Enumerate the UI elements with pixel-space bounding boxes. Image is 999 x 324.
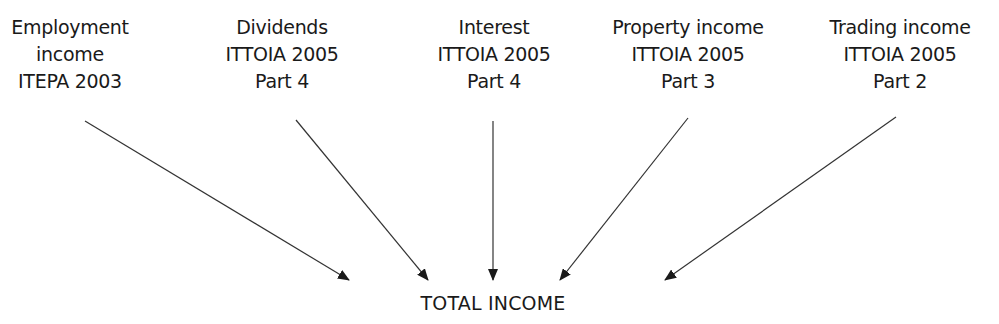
arrow-trading-to-total xyxy=(665,117,896,280)
arrows-layer xyxy=(0,0,999,324)
arrow-property-to-total xyxy=(560,118,688,280)
arrow-employment-to-total xyxy=(85,121,349,280)
total-income-label: TOTAL INCOME xyxy=(393,292,593,314)
arrow-dividends-to-total xyxy=(296,120,428,280)
